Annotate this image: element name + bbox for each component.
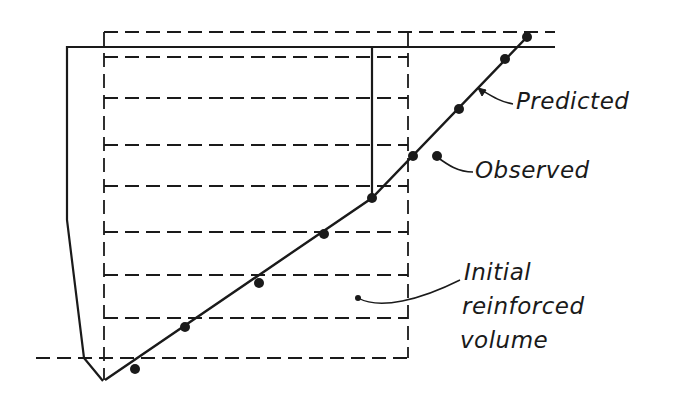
- observed-point: [254, 278, 264, 288]
- initial-volume-label-line3: volume: [460, 328, 548, 352]
- observed-point: [319, 229, 329, 239]
- observed-point: [130, 364, 140, 374]
- predicted-arrowhead: [478, 88, 486, 96]
- observed-point: [432, 151, 442, 161]
- observed-leader: [437, 157, 473, 172]
- initial-volume-label-line2: reinforced: [462, 294, 585, 318]
- observed-point: [522, 32, 532, 42]
- initial-volume-marker: [355, 295, 361, 301]
- observed-point: [367, 193, 377, 203]
- observed-point: [408, 151, 418, 161]
- initial-volume-label-line1: Initial: [464, 260, 531, 284]
- observed-point: [454, 104, 464, 114]
- initial-volume-leader: [358, 280, 460, 303]
- observed-point: [180, 322, 190, 332]
- diagram-canvas: [0, 0, 673, 409]
- observed-point: [500, 54, 510, 64]
- predicted-label: Predicted: [516, 89, 629, 113]
- observed-label: Observed: [475, 158, 590, 182]
